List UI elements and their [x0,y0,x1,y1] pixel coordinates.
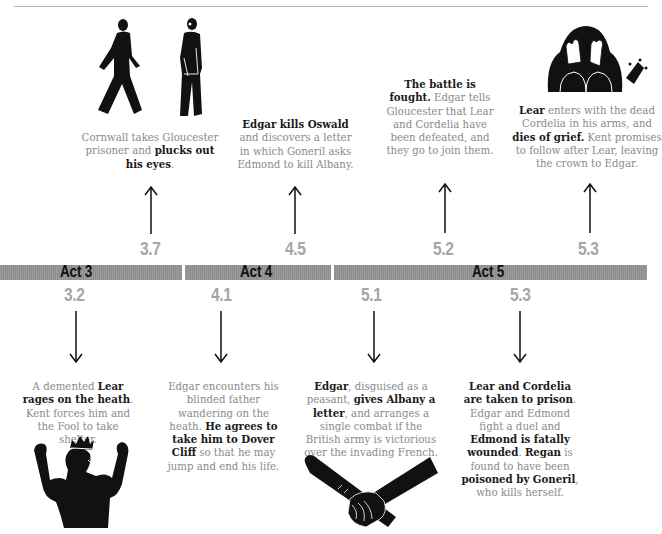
raging-lear-crown-icon [26,432,136,532]
event-5-3-final-description: Lear enters with the dead Cordelia in hi… [511,104,662,170]
event-4-1-description: Edgar encounters his blinded father wand… [166,380,281,473]
arrow-down-icon [214,310,228,364]
arrow-up-icon [583,182,597,234]
arrow-up-icon [288,185,302,235]
event-3-7-description: Cornwall takes Gloucester prisoner and p… [80,131,220,171]
event-5-2-description: The battle is fought. Edgar tells Glouce… [384,78,496,158]
act-5-label: Act 5 [472,262,504,282]
grieving-lear-crown-icon [538,22,648,94]
scene-number-3-7: 3.7 [140,238,160,260]
scene-number-3-2: 3.2 [64,284,84,306]
hand-letter-scroll-icon [300,455,440,534]
scene-number-5-3-above: 5.3 [578,238,598,260]
event-5-3-description: Lear and Cordelia are taken to prison. E… [459,380,581,500]
scene-number-5-1: 5.1 [361,284,381,306]
top-divider [14,6,648,7]
gloucester-led-prisoner-icon [84,18,224,128]
event-5-1-description: Edgar, disguised as a peasant, gives Alb… [301,380,441,460]
scene-number-4-1: 4.1 [211,284,231,306]
event-4-5-description: Edgar kills Oswald and discovers a lette… [233,118,358,171]
arrow-up-icon [144,185,158,235]
arrow-down-icon [367,310,381,364]
act-3-label: Act 3 [60,262,92,282]
scene-number-5-2: 5.2 [433,238,453,260]
act-4-label: Act 4 [240,262,272,282]
scene-number-5-3-below: 5.3 [510,284,530,306]
scene-number-4-5: 4.5 [285,238,305,260]
arrow-down-icon [513,310,527,364]
arrow-up-icon [438,182,452,234]
arrow-down-icon [69,310,83,364]
